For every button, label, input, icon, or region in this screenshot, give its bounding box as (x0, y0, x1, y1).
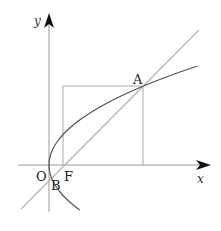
parabola (49, 66, 198, 210)
focal-chord-line (21, 30, 199, 209)
y-axis-label: y (33, 14, 41, 28)
parabola-diagram: y x O F A B (0, 0, 221, 231)
point-label-f: F (64, 169, 73, 184)
point-label-o: O (36, 169, 47, 184)
x-axis (18, 160, 211, 170)
point-label-b: B (51, 178, 61, 193)
x-axis-label: x (197, 172, 204, 186)
point-label-a: A (132, 72, 143, 87)
